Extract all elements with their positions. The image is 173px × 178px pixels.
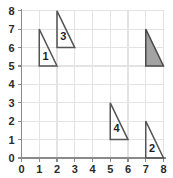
shape-labels: 1342	[42, 30, 155, 153]
x-tick-label: 8	[160, 163, 166, 175]
x-axis-tick-labels: 012345678	[18, 163, 166, 175]
x-tick-label: 7	[143, 163, 149, 175]
x-tick-label: 5	[107, 163, 113, 175]
y-tick-label: 8	[8, 5, 14, 17]
y-tick-label: 0	[8, 152, 14, 164]
triangle-label-1: 1	[42, 50, 48, 62]
coordinate-grid-figure: 012345678 012345678 1342	[0, 0, 173, 178]
x-tick-label: 4	[89, 163, 96, 175]
y-tick-label: 2	[8, 115, 14, 127]
y-tick-label: 1	[8, 134, 14, 146]
x-tick-label: 3	[72, 163, 78, 175]
x-tick-label: 1	[36, 163, 42, 175]
coordinate-plane-svg: 012345678 012345678 1342	[0, 0, 173, 178]
triangle-label-3: 3	[60, 30, 66, 42]
x-tick-label: 6	[125, 163, 131, 175]
x-tick-label: 0	[18, 163, 24, 175]
y-tick-label: 5	[8, 60, 14, 72]
y-tick-label: 6	[8, 42, 14, 54]
y-axis-tick-labels: 012345678	[8, 5, 15, 164]
x-tick-label: 2	[54, 163, 60, 175]
y-tick-label: 3	[8, 97, 14, 109]
triangle-label-2: 2	[149, 142, 155, 154]
triangle-label-4: 4	[113, 122, 120, 134]
grid-lines	[22, 11, 164, 158]
y-tick-label: 7	[8, 23, 14, 35]
y-tick-label: 4	[8, 78, 15, 90]
